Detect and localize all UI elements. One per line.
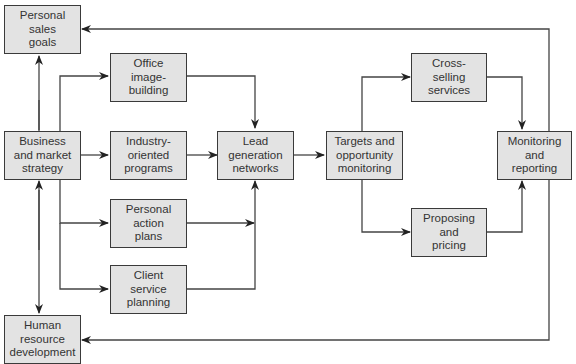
node-targets-opportunity-monitoring: Targets and opportunity monitoring — [326, 131, 403, 180]
arrow-client-to-lead — [187, 181, 255, 289]
arrow-strategy-to-client — [60, 223, 108, 289]
node-human-resource-development: Human resource development — [4, 315, 81, 364]
node-client-service-planning: Client service planning — [110, 265, 187, 314]
node-office-image-building: Office image- building — [110, 53, 187, 102]
arrow-strategy-to-office — [60, 76, 108, 131]
node-personal-sales-goals: Personal sales goals — [4, 5, 81, 54]
node-industry-oriented-programs: Industry- oriented programs — [110, 131, 187, 180]
arrow-targets-to-proposing — [362, 180, 410, 232]
node-monitoring-reporting: Monitoring and reporting — [497, 131, 572, 180]
node-personal-action-plans: Personal action plans — [110, 199, 187, 248]
arrow-strategy-to-action — [60, 180, 108, 223]
node-business-market-strategy: Business and market strategy — [4, 131, 81, 180]
arrow-crossselling-to-monitoring — [487, 77, 522, 129]
arrow-targets-to-crossselling — [362, 77, 410, 131]
arrow-proposing-to-monitoring — [487, 181, 522, 232]
node-lead-generation-networks: Lead generation networks — [217, 131, 294, 180]
node-cross-selling-services: Cross- selling services — [411, 53, 487, 102]
node-proposing-pricing: Proposing and pricing — [411, 208, 487, 257]
arrow-office-to-lead — [187, 76, 255, 128]
